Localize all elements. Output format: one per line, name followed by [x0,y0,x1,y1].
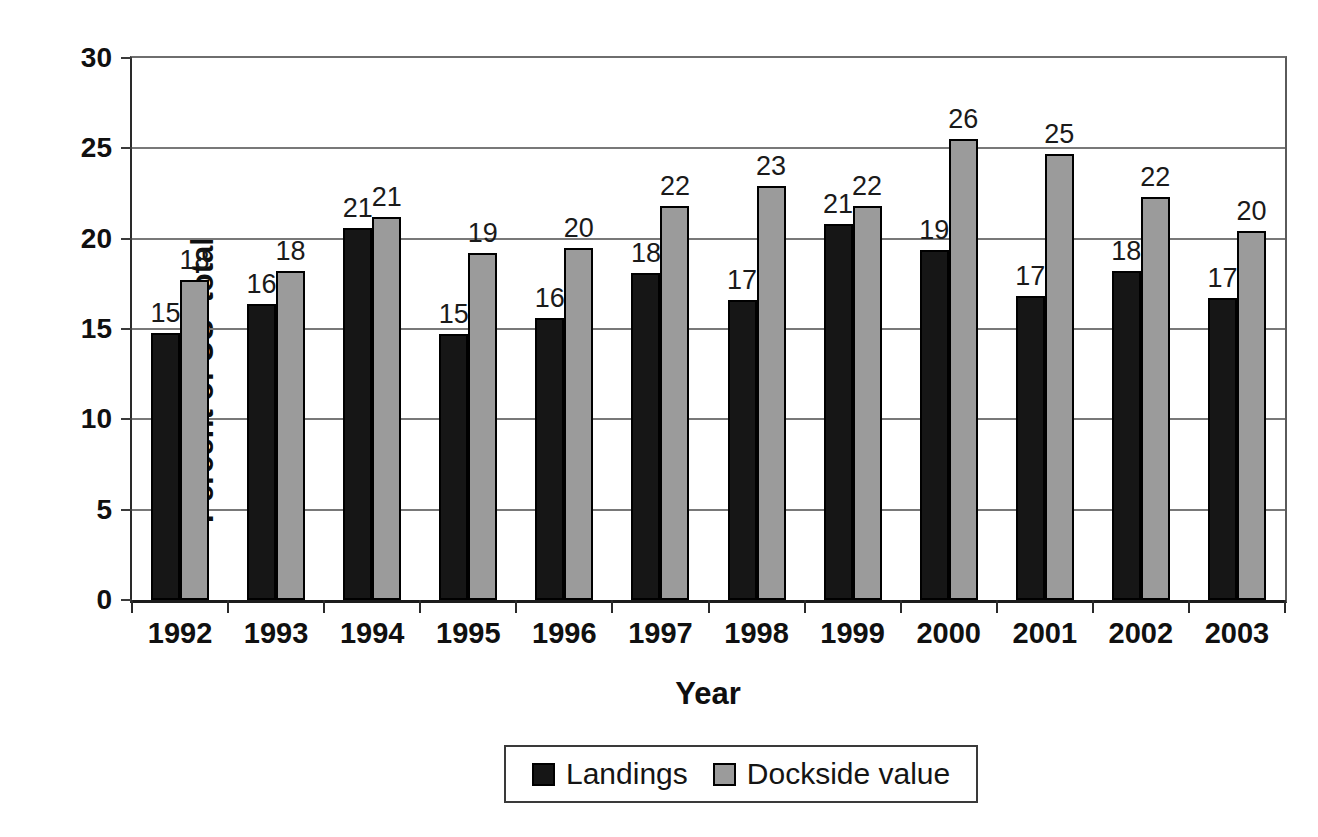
y-axis-tick-label-5: 5 [40,494,112,526]
bar-value-label-dockside-value-1993: 18 [259,235,323,267]
y-axis-tick-10 [121,418,132,420]
bar-landings-1993 [247,304,276,600]
plot-area: Percent of US total 05101520253015181992… [130,56,1287,603]
bar-value-label-dockside-value-2003: 20 [1219,195,1283,227]
y-axis-tick-label-30: 30 [40,42,112,74]
x-axis-tick-10 [1092,600,1094,613]
bar-dockside-value-1996 [564,248,593,600]
bar-value-label-dockside-value-2001: 25 [1027,118,1091,150]
x-axis-year-label-2001: 2001 [997,616,1093,650]
dockside-value-swatch-icon [713,763,736,786]
bar-value-label-dockside-value-1995: 19 [451,217,515,249]
y-axis-tick-label-25: 25 [40,132,112,164]
bar-value-label-dockside-value-1996: 20 [547,212,611,244]
y-axis-tick-label-20: 20 [40,223,112,255]
x-axis-year-label-1995: 1995 [420,616,516,650]
x-axis-year-label-1997: 1997 [612,616,708,650]
bar-value-label-dockside-value-1998: 23 [739,150,803,182]
x-axis-year-label-2002: 2002 [1093,616,1189,650]
bar-dockside-value-1992 [180,280,209,600]
x-axis-year-label-2003: 2003 [1189,616,1285,650]
bar-dockside-value-2000 [949,139,978,600]
x-axis-tick-1 [227,600,229,613]
x-axis-tick-7 [804,600,806,613]
x-axis-year-label-1999: 1999 [805,616,901,650]
x-axis-tick-2 [323,600,325,613]
bar-value-label-dockside-value-1994: 21 [355,181,419,213]
y-axis-tick-5 [121,509,132,511]
bar-value-label-dockside-value-1992: 18 [163,244,227,276]
bar-landings-2003 [1208,298,1237,600]
legend-label-landings: Landings [566,757,688,791]
bar-value-label-dockside-value-1997: 22 [643,170,707,202]
bar-dockside-value-1993 [276,271,305,600]
y-axis-tick-label-10: 10 [40,403,112,435]
gridline-25 [132,147,1285,149]
y-axis-tick-20 [121,238,132,240]
y-axis-tick-label-15: 15 [40,313,112,345]
bar-dockside-value-1995 [468,253,497,600]
bar-dockside-value-2003 [1237,231,1266,600]
bar-dockside-value-1999 [853,206,882,600]
bar-dockside-value-1994 [372,217,401,600]
x-axis-year-label-1996: 1996 [516,616,612,650]
x-axis-year-label-1993: 1993 [228,616,324,650]
x-axis-year-label-1994: 1994 [324,616,420,650]
x-axis-year-label-1992: 1992 [132,616,228,650]
bar-landings-2000 [920,250,949,600]
bar-value-label-dockside-value-2000: 26 [931,103,995,135]
y-axis-tick-30 [121,57,132,59]
x-axis-title: Year [648,676,768,712]
x-axis-tick-11 [1188,600,1190,613]
bar-value-label-dockside-value-1999: 22 [835,170,899,202]
bar-dockside-value-2002 [1141,197,1170,600]
bar-landings-1992 [151,333,180,600]
x-axis-tick-4 [515,600,517,613]
bar-landings-1996 [535,318,564,600]
bar-value-label-dockside-value-2002: 22 [1123,161,1187,193]
x-axis-year-label-1998: 1998 [709,616,805,650]
x-axis-tick-3 [419,600,421,613]
bar-landings-1998 [728,300,757,600]
x-axis-tick-5 [611,600,613,613]
bar-landings-1994 [343,228,372,600]
bar-landings-1999 [824,224,853,600]
bar-dockside-value-1998 [757,186,786,600]
bar-landings-1997 [631,273,660,600]
bar-landings-1995 [439,334,468,600]
x-axis-tick-0 [131,600,133,613]
y-axis-tick-label-0: 0 [40,584,112,616]
legend-label-dockside-value: Dockside value [747,757,950,791]
y-axis-tick-25 [121,147,132,149]
landings-swatch-icon [532,763,555,786]
bar-landings-2002 [1112,271,1141,600]
legend: Landings Dockside value [504,745,978,803]
x-axis-tick-6 [708,600,710,613]
x-axis-tick-8 [900,600,902,613]
bar-dockside-value-1997 [660,206,689,600]
bar-landings-2001 [1016,296,1045,600]
x-axis-tick-9 [996,600,998,613]
x-axis-year-label-2000: 2000 [901,616,997,650]
y-axis-tick-15 [121,328,132,330]
legend-item-dockside-value: Dockside value [713,757,950,791]
bar-dockside-value-2001 [1045,154,1074,600]
bar-chart-figure: Percent of US total 05101520253015181992… [0,0,1318,837]
x-axis-tick-12 [1284,600,1286,613]
legend-item-landings: Landings [532,757,688,791]
